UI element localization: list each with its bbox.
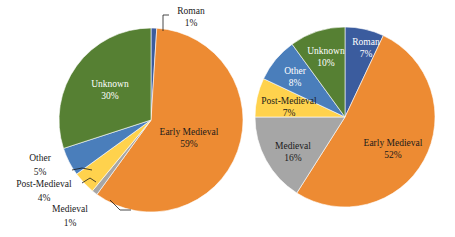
slice-pct-other: 5% [34, 167, 47, 177]
slice-pct-unknown: 10% [317, 58, 335, 68]
slice-label-medieval: Medieval [275, 141, 311, 151]
slice-pct-unknown: 30% [101, 91, 119, 101]
slice-label-roman: Roman [177, 6, 205, 16]
slice-pct-other: 8% [289, 78, 302, 88]
slice-pct-early-medieval: 59% [180, 139, 198, 149]
slice-pct-post-medieval: 4% [38, 193, 51, 203]
left-pie: Roman1%Early Medieval59%Medieval1%Post-M… [16, 6, 243, 228]
slice-pct-medieval: 16% [284, 153, 302, 163]
slice-label-early-medieval: Early Medieval [160, 127, 219, 137]
slice-pct-post-medieval: 7% [283, 108, 296, 118]
slice-label-unknown: Unknown [307, 46, 345, 56]
slice-label-other: Other [29, 153, 51, 163]
slice-pct-medieval: 1% [64, 218, 77, 228]
slice-label-unknown: Unknown [91, 79, 129, 89]
slice-pct-roman: 1% [185, 18, 198, 28]
slice-label-post-medieval: Post-Medieval [16, 179, 72, 189]
slice-label-post-medieval: Post-Medieval [261, 96, 317, 106]
slice-pct-early-medieval: 52% [384, 150, 402, 160]
slice-label-early-medieval: Early Medieval [364, 138, 423, 148]
right-pie: Roman7%Early Medieval52%Medieval16%Post-… [255, 27, 435, 207]
pie-chart-figure: Roman1%Early Medieval59%Medieval1%Post-M… [0, 0, 455, 237]
slice-label-other: Other [284, 66, 306, 76]
slice-pct-roman: 7% [360, 49, 373, 59]
chart-canvas: Roman1%Early Medieval59%Medieval1%Post-M… [0, 0, 455, 237]
slice-label-roman: Roman [352, 37, 380, 47]
slice-label-medieval: Medieval [52, 204, 88, 214]
